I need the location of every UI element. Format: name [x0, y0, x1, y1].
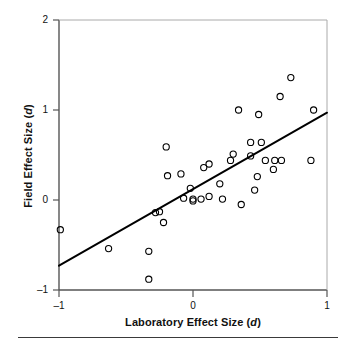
data-point	[230, 151, 236, 157]
plot-canvas	[0, 0, 349, 343]
data-point	[254, 174, 260, 180]
data-point	[311, 107, 317, 113]
y-axis-title-prefix: Field Effect Size (	[22, 115, 34, 208]
data-point	[198, 196, 204, 202]
data-point	[57, 227, 63, 233]
y-axis-title-italic: d	[22, 108, 34, 115]
data-point	[146, 248, 152, 254]
data-point	[206, 193, 212, 199]
axes-frame	[59, 20, 327, 290]
x-tick-label-0: 0	[180, 301, 206, 311]
data-point	[227, 157, 233, 163]
data-point	[277, 93, 283, 99]
data-point	[270, 166, 276, 172]
x-tick-label-neg1: –1	[46, 301, 72, 311]
scatter-plot-figure: 2 1 0 –1 –1 0 1 Field Effect Size (d) La…	[0, 0, 349, 343]
y-tick-label-2: 2	[22, 15, 48, 25]
x-axis-title-suffix: )	[257, 316, 261, 328]
data-point	[164, 173, 170, 179]
y-axis-title-suffix: )	[22, 104, 34, 108]
y-tick-marks	[53, 20, 59, 290]
y-tick-label-neg1: –1	[22, 285, 48, 295]
y-axis-title: Field Effect Size (d)	[22, 46, 34, 266]
data-point	[288, 75, 294, 81]
data-point	[256, 111, 262, 117]
data-point	[178, 171, 184, 177]
data-point	[258, 139, 264, 145]
data-point	[156, 209, 162, 215]
data-points-group	[57, 75, 316, 283]
data-point	[272, 157, 278, 163]
data-point	[160, 219, 166, 225]
x-tick-label-1: 1	[314, 301, 340, 311]
data-point	[181, 195, 187, 201]
data-point	[217, 181, 223, 187]
data-point	[248, 139, 254, 145]
data-point	[235, 107, 241, 113]
data-point	[105, 246, 111, 252]
data-point	[163, 144, 169, 150]
data-point	[206, 161, 212, 167]
x-axis-title: Laboratory Effect Size (d)	[59, 316, 327, 328]
data-point	[238, 201, 244, 207]
data-point	[219, 196, 225, 202]
data-point	[262, 157, 268, 163]
data-point	[252, 187, 258, 193]
data-point	[146, 276, 152, 282]
x-axis-title-prefix: Laboratory Effect Size (	[125, 316, 250, 328]
data-point	[308, 157, 314, 163]
x-tick-marks	[59, 290, 327, 297]
figure-footer-rule	[18, 337, 338, 338]
data-point	[278, 157, 284, 163]
